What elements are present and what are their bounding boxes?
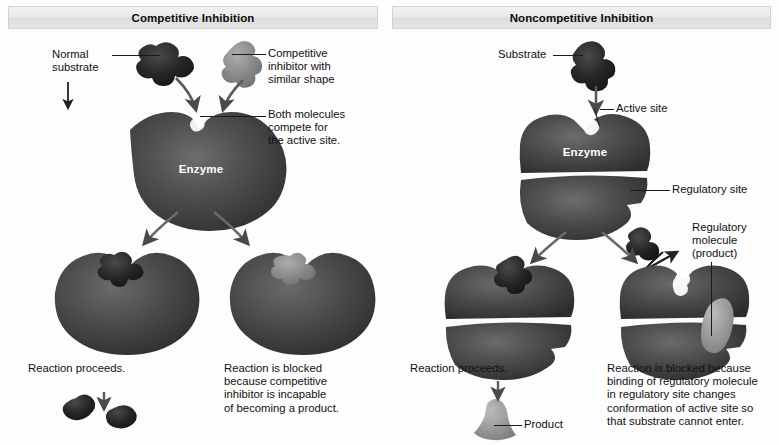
- enzyme-outcome-arrow-right: [214, 212, 248, 244]
- enzyme-inhibition-figure: Competitive Inhibition Noncompetitive In…: [0, 0, 779, 445]
- leader-active-site-h: [600, 109, 614, 110]
- leader-regulatory-molecule: [711, 262, 712, 336]
- product-molecule: [474, 399, 516, 440]
- panel-header-competitive-label: Competitive Inhibition: [132, 12, 255, 24]
- leader-both-molecules: [200, 116, 266, 117]
- enzyme-with-inhibitor-bound: [230, 253, 376, 355]
- outcome-noncompetitive-proceeds: Reaction proceeds.: [410, 362, 576, 375]
- panel-header-competitive: Competitive Inhibition: [8, 6, 378, 29]
- outcome-noncompetitive-blocked: Reaction is blocked because binding of r…: [607, 362, 779, 428]
- inhibitor-binding-arrow: [223, 80, 243, 110]
- label-regulatory-site: Regulatory site: [672, 183, 772, 196]
- outcome-competitive-proceeds: Reaction proceeds.: [28, 362, 194, 375]
- free-regulatory-molecule: [626, 227, 659, 260]
- enzyme-label-competitive: Enzyme: [145, 163, 257, 175]
- label-regulatory-molecule: Regulatory molecule (product): [692, 221, 776, 261]
- panel-header-noncompetitive-label: Noncompetitive Inhibition: [510, 12, 654, 24]
- leader-competitive-inhibitor: [232, 54, 266, 55]
- leader-product: [494, 425, 522, 426]
- product-fragments: [63, 395, 137, 429]
- label-competitive-inhibitor: Competitive inhibitor with similar shape: [268, 47, 378, 87]
- regulatory-binding-arrow-a: [645, 252, 663, 270]
- label-active-site: Active site: [616, 102, 694, 115]
- enzyme-label-noncompetitive: Enzyme: [530, 146, 640, 158]
- enzyme-noncompetitive: [520, 114, 651, 240]
- leader-substrate: [553, 55, 583, 56]
- normal-substrate-molecule: [136, 42, 194, 86]
- leader-normal-substrate: [112, 55, 160, 56]
- competitive-inhibitor-molecule: [222, 41, 263, 88]
- regulatory-binding-arrow-b: [645, 252, 677, 270]
- label-product: Product: [524, 418, 584, 431]
- label-normal-substrate: Normal substrate: [52, 48, 122, 74]
- enzyme-with-substrate-bound: [55, 252, 200, 355]
- substrate-binding-arrow: [176, 78, 196, 110]
- leader-regulatory-site: [630, 190, 670, 191]
- substrate-molecule-noncompetitive: [571, 41, 616, 91]
- noncompetitive-outcome-arrow-left: [532, 232, 566, 262]
- leader-active-site-v: [594, 109, 600, 127]
- panel-header-noncompetitive: Noncompetitive Inhibition: [392, 6, 771, 29]
- noncompetitive-outcome-arrow-right: [602, 232, 636, 262]
- outcome-competitive-blocked: Reaction is blocked because competitive …: [224, 362, 376, 415]
- label-both-molecules: Both molecules compete for the active si…: [268, 108, 380, 148]
- enzyme-outcome-arrow-left: [144, 212, 178, 244]
